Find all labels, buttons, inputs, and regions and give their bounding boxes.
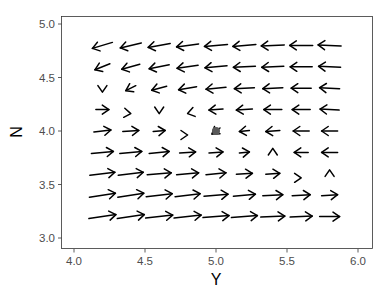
equilibrium-point	[212, 127, 220, 135]
x-tick-label: 4.5	[137, 255, 153, 267]
y-tick-label: 3.0	[39, 232, 55, 244]
y-tick-label: 4.5	[39, 72, 55, 84]
x-axis-title: Y	[211, 271, 222, 288]
y-tick-label: 4.0	[39, 125, 55, 137]
x-tick-label: 5.0	[208, 255, 224, 267]
x-tick-label: 5.5	[279, 255, 295, 267]
y-tick-label: 3.5	[39, 179, 55, 191]
x-tick-label: 4.0	[66, 255, 82, 267]
y-tick-label: 5.0	[39, 18, 55, 30]
vector-field-chart: 4.04.55.05.56.0 3.03.54.04.55.0 Y N	[0, 0, 389, 299]
x-tick-label: 6.0	[350, 255, 366, 267]
y-axis-title: N	[8, 126, 25, 138]
